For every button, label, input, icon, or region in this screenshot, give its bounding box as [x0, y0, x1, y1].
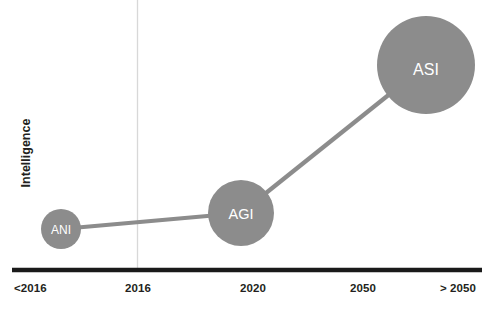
- y-axis-title: Intelligence: [19, 83, 33, 223]
- bubble-asi-label: ASI: [413, 61, 439, 78]
- chart-plot-area: ANI AGI ASI: [0, 0, 491, 311]
- x-tick-label-lt2016: <2016: [14, 282, 47, 294]
- bubble-ani-label: ANI: [51, 223, 71, 237]
- x-tick-label-2016: 2016: [125, 282, 151, 294]
- x-tick-label-2050: 2050: [350, 282, 376, 294]
- x-tick-label-2020: 2020: [240, 282, 266, 294]
- intelligence-evolution-chart: ANI AGI ASI Intelligence <2016 2016 2020…: [0, 0, 491, 311]
- bubble-agi-label: AGI: [229, 206, 254, 222]
- x-tick-label-gt2050: > 2050: [440, 282, 476, 294]
